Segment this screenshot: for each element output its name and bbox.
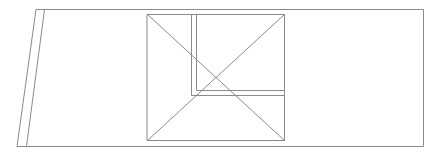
outer-frame-outline: [18, 10, 424, 147]
inner-l-outline-outer: [192, 15, 285, 96]
inner-l-outline-inner: [197, 15, 285, 91]
diagram-canvas: [0, 0, 441, 152]
slanted-strip-edge: [27, 10, 45, 147]
